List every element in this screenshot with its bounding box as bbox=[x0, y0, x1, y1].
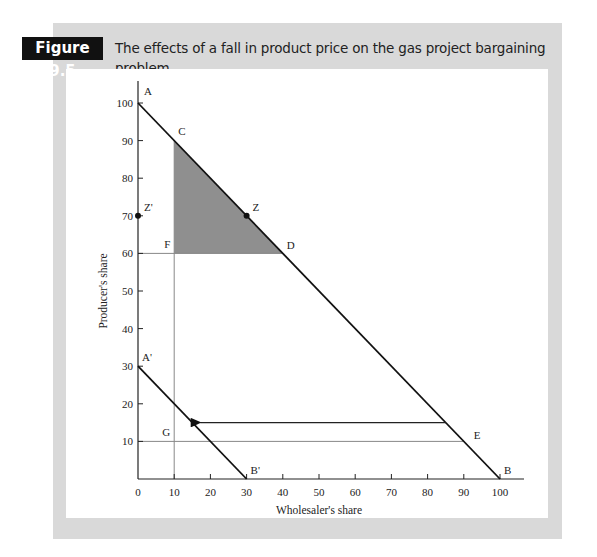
y-axis-title: Producer's share bbox=[97, 253, 109, 328]
y-tick-label: 100 bbox=[117, 97, 134, 109]
point-label: Z bbox=[253, 201, 260, 213]
point-label: G bbox=[162, 426, 170, 438]
x-tick-label: 60 bbox=[350, 486, 362, 498]
point-label: F bbox=[164, 238, 170, 250]
x-tick-label: 40 bbox=[277, 486, 289, 498]
x-tick-label: 30 bbox=[241, 486, 253, 498]
x-tick-label: 50 bbox=[314, 486, 326, 498]
y-tick-label: 90 bbox=[122, 135, 134, 147]
point-marker bbox=[135, 213, 141, 219]
y-tick-label: 70 bbox=[122, 210, 134, 222]
point-label: B bbox=[504, 464, 511, 476]
x-tick-label: 10 bbox=[169, 486, 181, 498]
point-label: A bbox=[144, 85, 152, 97]
x-tick-label: 70 bbox=[386, 486, 398, 498]
x-tick-label: 80 bbox=[422, 486, 434, 498]
y-tick-label: 30 bbox=[122, 360, 134, 372]
point-marker bbox=[244, 213, 250, 219]
point-label: C bbox=[178, 125, 185, 137]
x-tick-label: 100 bbox=[492, 486, 509, 498]
x-tick-label: 90 bbox=[458, 486, 470, 498]
y-tick-label: 40 bbox=[122, 323, 134, 335]
point-label: A' bbox=[142, 351, 152, 363]
y-tick-label: 10 bbox=[122, 435, 134, 447]
y-tick-label: 80 bbox=[122, 172, 134, 184]
x-tick-label: 20 bbox=[205, 486, 217, 498]
x-axis-title: Wholesaler's share bbox=[276, 504, 362, 516]
point-label: B' bbox=[251, 464, 260, 476]
y-tick-label: 60 bbox=[122, 247, 134, 259]
y-tick-label: 50 bbox=[122, 285, 134, 297]
chart: 0102030405060708090100102030405060708090… bbox=[0, 0, 597, 557]
point-label: E bbox=[474, 429, 481, 441]
x-tick-label: 0 bbox=[135, 486, 141, 498]
point-label: D bbox=[287, 239, 295, 251]
point-label: Z' bbox=[144, 201, 153, 213]
y-tick-label: 20 bbox=[122, 398, 134, 410]
